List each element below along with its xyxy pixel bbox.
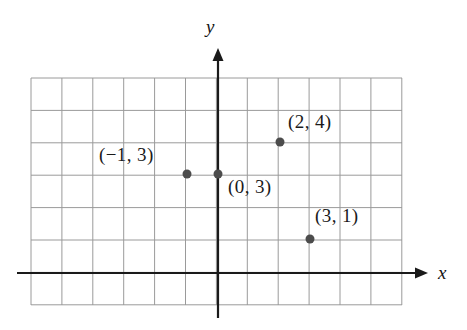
data-point: [183, 170, 192, 179]
data-point: [214, 170, 223, 179]
plot-canvas: [0, 0, 467, 330]
point-label-2-4: (2, 4): [288, 111, 332, 133]
y-axis-label: y: [206, 16, 214, 38]
axis-lines: [17, 48, 428, 318]
x-axis-arrowhead-icon: [415, 268, 428, 279]
data-point: [306, 235, 315, 244]
point-label-3-1: (3, 1): [315, 205, 359, 227]
coordinate-plane-figure: x y (−1, 3) (0, 3) (2, 4) (3, 1): [0, 0, 467, 330]
data-point: [276, 138, 285, 147]
grid-lines: [31, 78, 402, 305]
y-axis-arrowhead-icon: [213, 48, 224, 61]
x-axis-label: x: [438, 262, 446, 284]
point-label-neg1-3: (−1, 3): [99, 144, 154, 166]
point-label-0-3: (0, 3): [228, 176, 272, 198]
